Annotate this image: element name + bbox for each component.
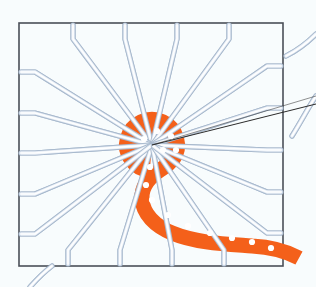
via-dot	[185, 223, 191, 229]
via-dot	[268, 245, 274, 251]
via-dot	[173, 147, 179, 153]
via-dot	[143, 182, 149, 188]
via-dot	[141, 136, 147, 142]
via-dot	[168, 133, 174, 139]
via-dot	[160, 147, 166, 153]
via-dot	[147, 164, 153, 170]
diagram-canvas: Fanout routing illustration Square die/p…	[0, 0, 316, 287]
via-dot	[207, 230, 213, 236]
via-dot	[165, 212, 171, 218]
via-dot	[154, 128, 160, 134]
routing-diagram-svg	[0, 0, 316, 287]
via-dot	[149, 197, 155, 203]
via-dot	[249, 239, 255, 245]
via-dot	[229, 235, 235, 241]
